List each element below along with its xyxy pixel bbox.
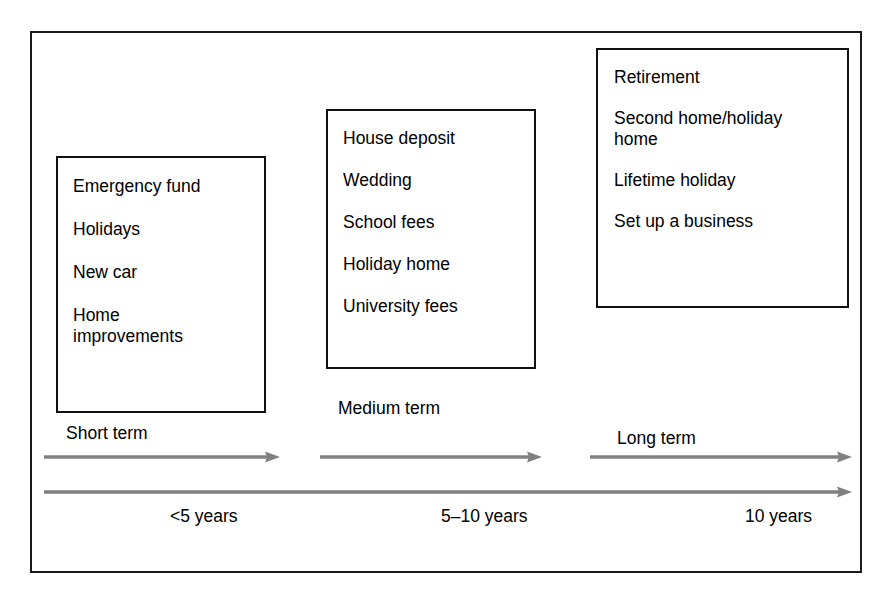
short-term-goals-box: Emergency fund Holidays New car Home imp… [56,156,266,413]
goal-item: Holidays [73,219,264,240]
medium-term-label: Medium term [338,398,440,418]
goal-item: Retirement [614,67,847,88]
short-term-duration-label: <5 years [170,506,238,526]
goal-item: Wedding [343,170,534,191]
short-term-label: Short term [66,423,148,443]
goal-item: Holiday home [343,254,534,275]
goal-item: New car [73,262,264,283]
medium-term-goals-box: House deposit Wedding School fees Holida… [326,109,536,369]
timeline-arrow-icon [44,485,852,499]
short-term-goal-list: Emergency fund Holidays New car Home imp… [73,176,264,347]
short-term-arrow-icon [44,450,280,464]
goal-item: Emergency fund [73,176,264,197]
long-term-arrow-icon [590,450,852,464]
medium-term-arrow-icon [320,450,542,464]
medium-term-goal-list: House deposit Wedding School fees Holida… [343,128,534,317]
goal-item: Lifetime holiday [614,170,847,191]
goal-item: University fees [343,296,534,317]
goal-item: Set up a business [614,211,847,232]
long-term-goal-list: Retirement Second home/holiday home Life… [614,67,847,232]
long-term-goals-box: Retirement Second home/holiday home Life… [596,48,849,308]
goal-item: House deposit [343,128,534,149]
goal-item: School fees [343,212,534,233]
goal-item: Home improvements [73,305,264,347]
diagram-canvas: Emergency fund Holidays New car Home imp… [0,0,892,606]
medium-term-duration-label: 5–10 years [441,506,528,526]
goal-item: Second home/holiday home [614,108,847,150]
long-term-label: Long term [617,428,696,448]
long-term-duration-label: 10 years [745,506,812,526]
